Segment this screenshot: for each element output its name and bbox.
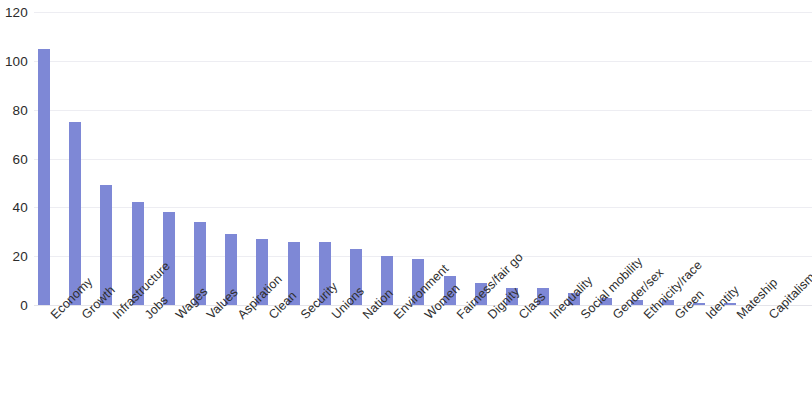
x-tick-label: Economy — [48, 312, 58, 322]
x-tick-label: Dignity — [485, 312, 495, 322]
y-tick-label: 20 — [13, 249, 28, 264]
x-tick-label: Inequality — [547, 312, 557, 322]
x-tick-label: Capitalism — [766, 312, 776, 322]
x-tick-label: Unions — [329, 312, 339, 322]
x-tick-label: Ethnicity/race — [641, 312, 651, 322]
bar[interactable] — [69, 122, 81, 305]
x-tick-label: Nation — [360, 312, 370, 322]
x-tick-label: Environment — [391, 312, 401, 322]
gridline — [34, 61, 812, 62]
x-tick-label: Identity — [703, 312, 713, 322]
x-tick-label: Growth — [79, 312, 89, 322]
x-tick-label: Clean — [266, 312, 276, 322]
gridline — [34, 12, 812, 13]
y-tick-label: 0 — [20, 298, 28, 313]
gridline — [34, 256, 812, 257]
y-tick-label: 60 — [13, 151, 28, 166]
x-tick-label: Aspiration — [235, 312, 245, 322]
y-axis: 020406080100120 — [0, 0, 34, 402]
y-tick-label: 80 — [13, 102, 28, 117]
x-tick-label: Gender/sex — [610, 312, 620, 322]
x-tick-label: Social mobility — [578, 312, 588, 322]
bar[interactable] — [163, 212, 175, 305]
gridline — [34, 207, 812, 208]
x-tick-label: Fairness/fair go — [454, 312, 464, 322]
y-tick-label: 40 — [13, 200, 28, 215]
x-tick-label: Green — [672, 312, 682, 322]
y-tick-label: 120 — [5, 5, 28, 20]
x-tick-label: Women — [422, 312, 432, 322]
x-tick-label: Infrastructure — [110, 312, 120, 322]
gridline — [34, 159, 812, 160]
bar-chart: 020406080100120 EconomyGrowthInfrastruct… — [0, 0, 812, 402]
x-tick-label: Values — [204, 312, 214, 322]
x-tick-label: Wages — [173, 312, 183, 322]
x-tick-label: Class — [516, 312, 526, 322]
x-axis: EconomyGrowthInfrastructureJobsWagesValu… — [34, 306, 812, 402]
x-tick-label: Mateship — [734, 312, 744, 322]
bar[interactable] — [38, 49, 50, 305]
gridline — [34, 110, 812, 111]
x-tick-label: Jobs — [142, 312, 152, 322]
y-tick-label: 100 — [5, 53, 28, 68]
x-tick-label: Security — [298, 312, 308, 322]
